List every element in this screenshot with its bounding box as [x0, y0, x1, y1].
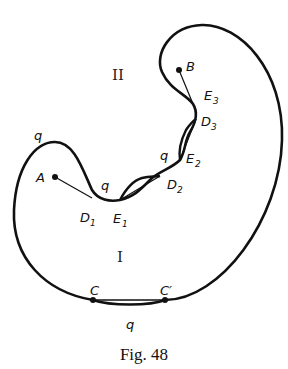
label-D2-sub: 2 — [177, 185, 183, 195]
label-A: A — [35, 170, 45, 185]
label-D3-sub: 3 — [211, 122, 217, 132]
region-label-II: II — [112, 66, 124, 84]
label-D2: D — [167, 177, 177, 192]
point-A — [52, 174, 58, 180]
label-E2-sub: 2 — [195, 159, 201, 169]
label-D1-sub: 1 — [90, 218, 96, 228]
label-E3: E — [204, 88, 213, 103]
label-E1-sub: 1 — [122, 219, 128, 229]
label-C: C — [90, 283, 100, 298]
label-E2: E — [186, 151, 195, 166]
diagram-canvas: II I q q q q A B C C′ D 1 D 2 D 3 E 1 E … — [0, 0, 288, 369]
label-D3: D — [201, 114, 211, 129]
outer-curve-q — [14, 25, 282, 305]
segment-E3-B — [179, 70, 193, 104]
label-B: B — [186, 59, 195, 74]
curve-label-q-D2E2: q — [160, 148, 168, 163]
curve-label-q-left: q — [34, 128, 42, 143]
label-E1: E — [113, 211, 122, 226]
curve-label-q-D1E1: q — [101, 178, 109, 193]
label-C-prime: C′ — [160, 283, 172, 298]
curve-label-q-bottom: q — [126, 317, 134, 332]
region-label-I: I — [117, 248, 123, 266]
point-B — [176, 67, 182, 73]
label-E3-sub: 3 — [213, 96, 219, 106]
figure-caption: Fig. 48 — [120, 345, 168, 364]
label-D1: D — [80, 210, 90, 225]
